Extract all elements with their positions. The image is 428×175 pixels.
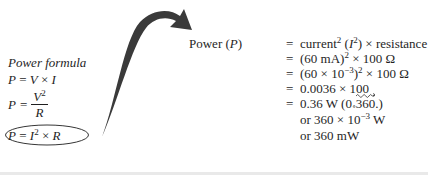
alternate-formula: or 360 × 10−3 W [300,113,385,126]
step-formula: current2 (I2) × resistance [300,37,427,50]
decimal-shift: 360 [356,97,376,110]
var-v: V [30,72,38,87]
equals-sign: = [286,37,293,50]
power-label: Power (P) [189,37,242,50]
text: 360 [356,96,376,111]
var-p: P [230,36,238,51]
fraction-denominator: R [36,105,44,119]
exponent: −3 [360,111,370,121]
equals-sign: = [19,128,26,143]
text: current [300,36,337,51]
equals-sign: = [19,72,26,87]
fraction-numerator: V2 [31,90,47,105]
step-formula: (60 mA)2 × 100 Ω [300,52,395,65]
formula-p-equals-i-squared-times-r: P = I2 × R [8,129,60,142]
text: or 360 × 10 [300,112,360,127]
equals-sign: = [286,82,293,95]
times-sign: × [41,72,48,87]
var-p: P [8,72,16,87]
paren-close: ) [238,36,242,51]
exponent: 2 [34,127,39,137]
text: (60 mA) [300,51,344,66]
bottom-border [0,172,428,175]
fraction: V2 R [31,90,47,119]
equals-sign: = [286,97,293,110]
equals-sign: = [286,52,293,65]
exponent: 2 [41,88,46,98]
text: .) [375,96,383,111]
text: W [370,112,385,127]
exponent: −3 [344,65,354,75]
formula-p-equals-v-squared-over-r: P = V2 R [8,90,48,119]
alternate-formula: or 360 mW [300,129,359,142]
text: 0.36 W (0 [300,96,352,111]
power-text: Power ( [189,36,230,51]
text: × 100 Ω [349,51,395,66]
var-r: R [52,128,60,143]
text: ( [341,36,349,51]
text: (60 × 10 [300,66,344,81]
text: ) × resistance [358,36,427,51]
times-sign: × [42,128,49,143]
var-p: P [8,98,16,111]
formula-p-equals-v-times-i: P = V × I [8,73,56,86]
text: × 100 Ω [363,66,409,81]
power-formula-title: Power formula [8,56,86,69]
step-formula: (60 × 10−3)2 × 100 Ω [300,67,409,80]
var-p: P [8,128,16,143]
equals-sign: = [286,67,293,80]
equals-sign: = [20,98,27,111]
step-formula: 0.36 W (0∘360.) [300,97,383,111]
var-i: I [52,72,56,87]
decimal-shift-arrow-icon [356,92,376,98]
